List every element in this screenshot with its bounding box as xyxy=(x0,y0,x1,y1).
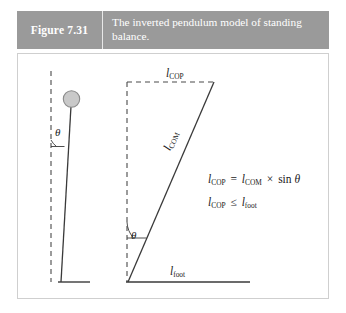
lcop-subscript: COP xyxy=(169,72,183,81)
eq2-lhs-subscript: COP xyxy=(211,201,225,210)
eq1-argument: θ xyxy=(294,173,300,185)
eq2-rhs-subscript: foot xyxy=(245,201,257,210)
figure-root: Figure 7.31 The inverted pendulum model … xyxy=(0,0,346,313)
eq1-lhs-subscript: COP xyxy=(211,178,225,187)
left-theta-symbol: θ xyxy=(55,126,60,138)
equation-lcop-constraint: lCOP ≤ lfoot xyxy=(208,197,300,209)
left-pendulum-rod xyxy=(61,106,71,282)
eq1-rhs-subscript: COM xyxy=(245,178,262,187)
figure-number-label: Figure 7.31 xyxy=(31,24,89,36)
lcop-label: lCOP xyxy=(166,64,184,80)
figure-panel-inner: lCOP lCOM lfoot θ θ lCOP = lCOM × xyxy=(18,54,328,298)
figure-caption-cell: The inverted pendulum model of standing … xyxy=(103,11,329,49)
eq1-operator: × xyxy=(265,173,276,185)
lfoot-label: lfoot xyxy=(170,262,185,278)
right-theta-label: θ xyxy=(131,226,136,242)
lcom-line xyxy=(128,82,214,282)
figure-caption-text: The inverted pendulum model of standing … xyxy=(112,16,321,44)
body-mass-circle xyxy=(63,91,79,107)
equation-block: lCOP = lCOM × sin θ lCOP ≤ lfoot xyxy=(208,174,300,219)
figure-panel: lCOP lCOM lfoot θ θ lCOP = lCOM × xyxy=(17,53,329,299)
eq1-relation: = xyxy=(228,173,239,185)
left-theta-arc xyxy=(51,140,57,147)
left-theta-label: θ xyxy=(55,123,60,139)
lfoot-subscript: foot xyxy=(173,270,185,279)
figure-caption-bar: Figure 7.31 The inverted pendulum model … xyxy=(17,11,329,49)
right-theta-symbol: θ xyxy=(131,229,136,241)
equation-lcop-definition: lCOP = lCOM × sin θ xyxy=(208,174,300,186)
eq2-relation: ≤ xyxy=(228,196,238,208)
figure-number-cell: Figure 7.31 xyxy=(17,11,103,49)
eq1-function: sin xyxy=(278,173,291,185)
